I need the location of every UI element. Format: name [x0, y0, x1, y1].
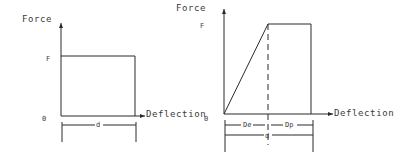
origin-label: 0	[204, 115, 208, 123]
force-curve	[61, 56, 135, 116]
y-axis-label: Force	[22, 14, 52, 24]
dimension-d-label: d	[96, 121, 100, 129]
dimension-d-label: d	[265, 132, 269, 140]
force-deflection-diagrams: Force Deflection F 0 d Force Deflection …	[0, 0, 404, 165]
diagram-elastic-plastic: Force Deflection F 0 De Dp d	[176, 3, 394, 152]
diagram-rigid-plastic: Force Deflection F 0 d	[22, 14, 206, 142]
dimension-de-label: De	[243, 121, 251, 129]
force-level-label: F	[46, 55, 50, 63]
x-axis-label: Deflection	[334, 108, 394, 118]
origin-label: 0	[42, 115, 46, 123]
dimension-dp-label: Dp	[285, 121, 293, 129]
y-axis-label: Force	[176, 3, 206, 13]
x-axis-label: Deflection	[146, 109, 206, 119]
force-level-label: F	[200, 22, 204, 30]
